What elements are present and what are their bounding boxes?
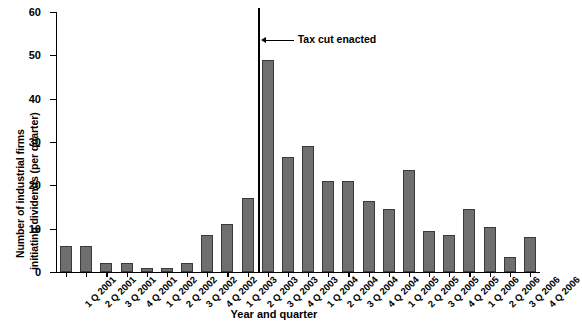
bar (383, 209, 395, 272)
y-tick-20: 20 (50, 185, 56, 186)
plot-area: 0102030405060 Tax cut enacted (56, 12, 540, 272)
y-tick-label-40: 40 (29, 93, 41, 105)
bar (423, 231, 435, 272)
bar (443, 235, 455, 272)
y-tick-10: 10 (50, 229, 56, 230)
bar (504, 257, 516, 272)
bar (80, 246, 92, 272)
bar (262, 60, 274, 272)
event-annotation-label: Tax cut enacted (298, 33, 377, 45)
y-tick-label-0: 0 (35, 266, 41, 278)
bar (302, 146, 314, 272)
bar (201, 235, 213, 272)
bar (100, 263, 112, 272)
y-tick-30: 30 (50, 142, 56, 143)
y-tick-label-50: 50 (29, 49, 41, 61)
y-tick-0: 0 (50, 272, 56, 273)
bar (242, 198, 254, 272)
y-tick-40: 40 (50, 99, 56, 100)
bar (121, 263, 133, 272)
y-tick-60: 60 (50, 12, 56, 13)
y-tick-50: 50 (50, 55, 56, 56)
y-axis-title: Number of industrial firms initiating di… (0, 0, 32, 290)
event-leader-line (264, 40, 294, 41)
bar (363, 201, 375, 273)
y-tick-label-10: 10 (29, 223, 41, 235)
y-tick-label-30: 30 (29, 136, 41, 148)
y-axis-title-line-1: Number of industrial firms (14, 129, 26, 258)
bar (342, 181, 354, 272)
bar (282, 157, 294, 272)
x-axis-title: Year and quarter (0, 308, 548, 320)
bar (524, 237, 536, 272)
bar (322, 181, 334, 272)
bar (141, 268, 153, 272)
bar (484, 227, 496, 273)
event-marker-line (258, 8, 260, 272)
y-axis-line (56, 12, 57, 272)
y-tick-label-20: 20 (29, 179, 41, 191)
bar (403, 170, 415, 272)
bar (60, 246, 72, 272)
bar (221, 224, 233, 272)
bar (161, 268, 173, 272)
bar (181, 263, 193, 272)
bar (463, 209, 475, 272)
y-tick-label-60: 60 (29, 6, 41, 18)
